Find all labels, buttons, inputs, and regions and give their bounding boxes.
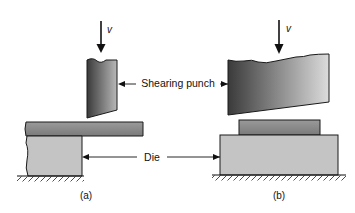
die-b <box>220 135 338 175</box>
arrowhead-left-icon <box>118 81 125 87</box>
arrowhead-right-icon <box>221 81 228 87</box>
die-a <box>26 136 82 176</box>
ground-hatch-b-icon <box>212 175 346 181</box>
shearing-punch-a <box>87 59 117 118</box>
sheet-metal-b <box>239 120 320 135</box>
die-label: Die <box>144 151 160 163</box>
arrowhead-right-icon <box>213 154 220 160</box>
velocity-arrow-a-icon <box>97 21 106 53</box>
sheet-metal-a <box>25 122 143 136</box>
shearing-diagram: v (a) v (b) <box>0 0 355 213</box>
die-callout: Die <box>82 150 220 163</box>
shearing-punch-callout: Shearing punch <box>118 77 228 90</box>
shearing-punch-b <box>228 54 329 115</box>
caption-a: (a) <box>80 190 92 201</box>
shearing-punch-label: Shearing punch <box>141 77 215 89</box>
velocity-arrow-b-icon <box>275 20 284 54</box>
caption-b: (b) <box>273 190 285 201</box>
panel-a: v (a) <box>17 21 143 201</box>
velocity-label-b: v <box>286 23 292 34</box>
velocity-label-a: v <box>107 24 113 35</box>
panel-b: v (b) <box>212 20 346 201</box>
arrowhead-left-icon <box>82 154 89 160</box>
ground-hatch-a-icon <box>17 176 84 182</box>
